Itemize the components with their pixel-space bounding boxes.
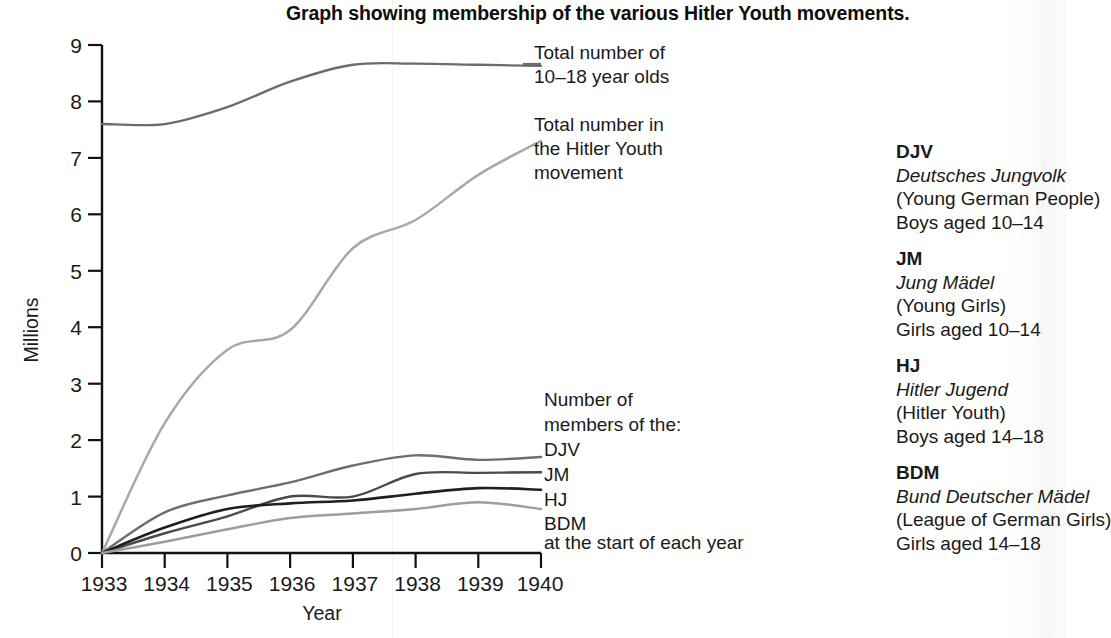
- y-tick-label: 8: [70, 90, 82, 113]
- y-tick-label: 1: [70, 486, 82, 509]
- series-label-hj: HJ: [544, 489, 567, 511]
- series-layer: [102, 63, 541, 553]
- legend-ages: Girls aged 10–14: [896, 318, 1086, 342]
- x-tick-label: 1940: [517, 572, 564, 595]
- legend-english: (Hitler Youth): [896, 401, 1086, 425]
- legend-panel: DJV Deutsches Jungvolk (Young German Peo…: [896, 140, 1086, 568]
- legend-item-jm: JM Jung Mädel (Young Girls) Girls aged 1…: [896, 247, 1086, 341]
- y-tick-label: 7: [70, 147, 82, 170]
- annotation-members-footer: at the start of each year: [544, 531, 744, 555]
- legend-item-djv: DJV Deutsches Jungvolk (Young German Peo…: [896, 140, 1086, 234]
- legend-ages: Boys aged 14–18: [896, 425, 1086, 449]
- x-tick-label: 1939: [457, 572, 504, 595]
- x-axis-ticks: [102, 553, 541, 568]
- legend-abbr: DJV: [896, 140, 1086, 164]
- legend-german: Hitler Jugend: [896, 378, 1086, 402]
- series-line-total-number-in-the-hitler-youth-movement: [102, 141, 541, 553]
- legend-abbr: HJ: [896, 354, 1086, 378]
- legend-english: (Young German People): [896, 187, 1086, 211]
- y-tick-label: 6: [70, 203, 82, 226]
- line-chart: 0 1 2 3 4 5 6 7 8 9 Millions: [0, 0, 600, 638]
- y-tick-label: 0: [70, 542, 82, 565]
- legend-english: (League of German Girls): [896, 508, 1086, 532]
- y-tick-label: 3: [70, 373, 82, 396]
- legend-item-bdm: BDM Bund Deutscher Mädel (League of Germ…: [896, 461, 1086, 555]
- series-line-total-number-of-10-18-year-olds: [102, 63, 541, 125]
- legend-english: (Young Girls): [896, 294, 1086, 318]
- x-tick-label: 1933: [81, 572, 128, 595]
- annotation-members-heading: Number of members of the:: [544, 387, 681, 437]
- legend-german: Bund Deutscher Mädel: [896, 485, 1086, 509]
- x-axis-label: Year: [302, 602, 342, 624]
- x-tick-label: 1936: [269, 572, 316, 595]
- y-tick-label: 5: [70, 260, 82, 283]
- legend-german: Deutsches Jungvolk: [896, 164, 1086, 188]
- chart-svg: 0 1 2 3 4 5 6 7 8 9 Millions: [0, 0, 600, 638]
- annotation-total-age-group: Total number of 10–18 year olds: [534, 41, 669, 89]
- legend-ages: Girls aged 14–18: [896, 532, 1086, 556]
- legend-abbr: JM: [896, 247, 1086, 271]
- y-axis-ticks: [88, 45, 102, 553]
- x-tick-label: 1935: [206, 572, 253, 595]
- series-label-jm: JM: [544, 464, 569, 486]
- series-line-djv: [102, 455, 541, 553]
- x-tick-label: 1938: [394, 572, 441, 595]
- annotation-total-hitler-youth: Total number in the Hitler Youth movemen…: [534, 113, 664, 185]
- legend-german: Jung Mädel: [896, 271, 1086, 295]
- x-tick-label: 1937: [332, 572, 379, 595]
- y-tick-label: 2: [70, 429, 82, 452]
- series-label-djv: DJV: [544, 439, 580, 461]
- y-axis-label: Millions: [20, 297, 42, 362]
- legend-abbr: BDM: [896, 461, 1086, 485]
- x-tick-label: 1934: [143, 572, 190, 595]
- legend-item-hj: HJ Hitler Jugend (Hitler Youth) Boys age…: [896, 354, 1086, 448]
- y-tick-label: 9: [70, 34, 82, 57]
- legend-ages: Boys aged 10–14: [896, 211, 1086, 235]
- y-tick-label: 4: [70, 316, 82, 339]
